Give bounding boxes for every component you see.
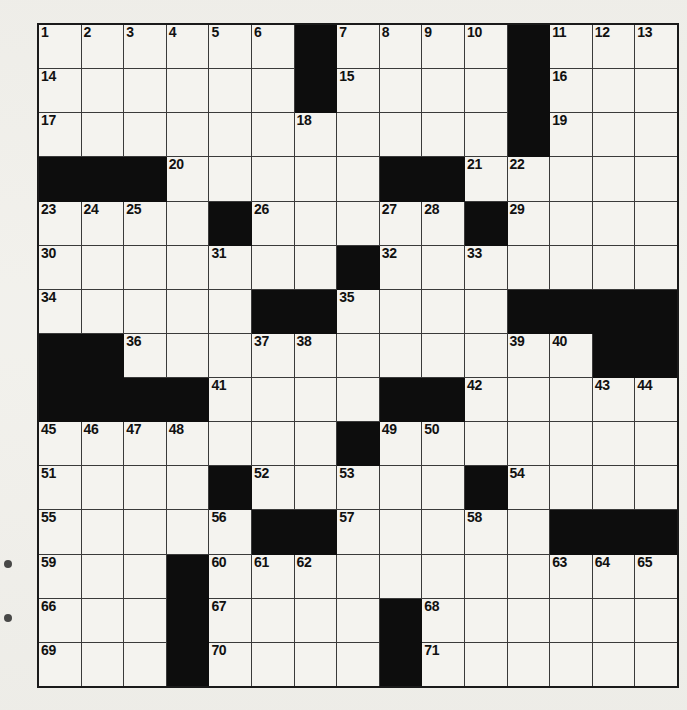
crossword-open-cell[interactable]: 12 [592, 24, 635, 69]
crossword-open-cell[interactable]: 56 [209, 510, 252, 554]
crossword-open-cell[interactable]: 13 [635, 24, 678, 69]
crossword-open-cell[interactable]: 63 [550, 554, 593, 598]
crossword-open-cell[interactable]: 39 [507, 333, 550, 377]
crossword-open-cell[interactable] [124, 289, 167, 333]
crossword-open-cell[interactable]: 4 [166, 24, 209, 69]
crossword-open-cell[interactable]: 31 [209, 245, 252, 289]
crossword-open-cell[interactable]: 71 [422, 642, 465, 687]
crossword-open-cell[interactable]: 70 [209, 642, 252, 687]
crossword-open-cell[interactable] [337, 378, 380, 422]
crossword-open-cell[interactable] [507, 642, 550, 687]
crossword-open-cell[interactable] [251, 642, 294, 687]
crossword-open-cell[interactable] [507, 554, 550, 598]
crossword-open-cell[interactable] [166, 69, 209, 113]
crossword-open-cell[interactable] [294, 642, 337, 687]
crossword-open-cell[interactable] [635, 157, 678, 201]
crossword-open-cell[interactable] [592, 466, 635, 510]
crossword-open-cell[interactable] [251, 598, 294, 642]
crossword-open-cell[interactable] [81, 245, 124, 289]
crossword-open-cell[interactable] [592, 113, 635, 157]
crossword-open-cell[interactable] [337, 201, 380, 245]
crossword-open-cell[interactable] [592, 422, 635, 466]
crossword-open-cell[interactable] [507, 598, 550, 642]
crossword-open-cell[interactable]: 18 [294, 113, 337, 157]
crossword-open-cell[interactable]: 21 [464, 157, 507, 201]
crossword-open-cell[interactable]: 48 [166, 422, 209, 466]
crossword-open-cell[interactable] [337, 113, 380, 157]
crossword-open-cell[interactable]: 53 [337, 466, 380, 510]
crossword-open-cell[interactable] [379, 289, 422, 333]
crossword-open-cell[interactable] [209, 113, 252, 157]
crossword-open-cell[interactable] [294, 422, 337, 466]
crossword-open-cell[interactable] [166, 466, 209, 510]
crossword-open-cell[interactable] [81, 598, 124, 642]
crossword-open-cell[interactable] [294, 245, 337, 289]
crossword-open-cell[interactable] [464, 598, 507, 642]
crossword-open-cell[interactable]: 27 [379, 201, 422, 245]
crossword-open-cell[interactable]: 2 [81, 24, 124, 69]
crossword-open-cell[interactable] [209, 157, 252, 201]
crossword-open-cell[interactable] [635, 69, 678, 113]
crossword-open-cell[interactable]: 57 [337, 510, 380, 554]
crossword-open-cell[interactable] [464, 289, 507, 333]
crossword-open-cell[interactable] [550, 378, 593, 422]
crossword-open-cell[interactable] [507, 245, 550, 289]
crossword-open-cell[interactable]: 52 [251, 466, 294, 510]
crossword-open-cell[interactable] [635, 466, 678, 510]
crossword-open-cell[interactable] [209, 289, 252, 333]
crossword-open-cell[interactable]: 66 [38, 598, 81, 642]
crossword-open-cell[interactable] [166, 289, 209, 333]
crossword-open-cell[interactable] [422, 289, 465, 333]
crossword-open-cell[interactable] [124, 642, 167, 687]
crossword-open-cell[interactable] [209, 333, 252, 377]
crossword-open-cell[interactable]: 6 [251, 24, 294, 69]
crossword-open-cell[interactable] [294, 466, 337, 510]
crossword-open-cell[interactable] [124, 69, 167, 113]
crossword-open-cell[interactable] [251, 113, 294, 157]
crossword-open-cell[interactable]: 23 [38, 201, 81, 245]
crossword-open-cell[interactable]: 59 [38, 554, 81, 598]
crossword-open-cell[interactable]: 35 [337, 289, 380, 333]
crossword-open-cell[interactable]: 1 [38, 24, 81, 69]
crossword-open-cell[interactable] [166, 201, 209, 245]
crossword-open-cell[interactable]: 26 [251, 201, 294, 245]
crossword-open-cell[interactable] [124, 466, 167, 510]
crossword-open-cell[interactable] [294, 598, 337, 642]
crossword-open-cell[interactable]: 5 [209, 24, 252, 69]
crossword-open-cell[interactable] [550, 157, 593, 201]
crossword-open-cell[interactable]: 22 [507, 157, 550, 201]
crossword-open-cell[interactable] [635, 642, 678, 687]
crossword-open-cell[interactable] [166, 510, 209, 554]
crossword-open-cell[interactable] [422, 466, 465, 510]
crossword-open-cell[interactable] [422, 245, 465, 289]
crossword-open-cell[interactable]: 64 [592, 554, 635, 598]
crossword-open-cell[interactable]: 14 [38, 69, 81, 113]
crossword-open-cell[interactable] [464, 113, 507, 157]
crossword-open-cell[interactable] [550, 245, 593, 289]
crossword-open-cell[interactable] [550, 642, 593, 687]
crossword-open-cell[interactable] [294, 201, 337, 245]
crossword-open-cell[interactable]: 41 [209, 378, 252, 422]
crossword-open-cell[interactable]: 68 [422, 598, 465, 642]
crossword-grid[interactable]: 1234567891011121314151617181920212223242… [37, 23, 679, 688]
crossword-open-cell[interactable] [166, 245, 209, 289]
crossword-open-cell[interactable] [166, 113, 209, 157]
crossword-open-cell[interactable] [124, 510, 167, 554]
crossword-open-cell[interactable] [337, 598, 380, 642]
crossword-open-cell[interactable]: 42 [464, 378, 507, 422]
crossword-open-cell[interactable] [592, 642, 635, 687]
crossword-open-cell[interactable] [251, 157, 294, 201]
crossword-open-cell[interactable]: 69 [38, 642, 81, 687]
crossword-open-cell[interactable]: 9 [422, 24, 465, 69]
crossword-open-cell[interactable]: 50 [422, 422, 465, 466]
crossword-open-cell[interactable]: 10 [464, 24, 507, 69]
crossword-open-cell[interactable]: 46 [81, 422, 124, 466]
crossword-open-cell[interactable] [379, 466, 422, 510]
crossword-open-cell[interactable]: 65 [635, 554, 678, 598]
crossword-open-cell[interactable] [635, 245, 678, 289]
crossword-open-cell[interactable] [592, 598, 635, 642]
crossword-open-cell[interactable]: 40 [550, 333, 593, 377]
crossword-open-cell[interactable] [635, 422, 678, 466]
crossword-open-cell[interactable]: 37 [251, 333, 294, 377]
crossword-open-cell[interactable] [550, 598, 593, 642]
